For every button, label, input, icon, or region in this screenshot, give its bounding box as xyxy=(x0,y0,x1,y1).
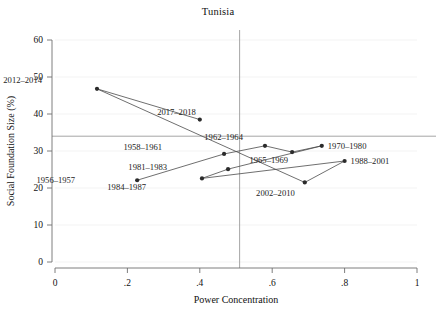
data-point-1965-1969[interactable] xyxy=(290,150,294,154)
data-point-1984-1987[interactable] xyxy=(200,176,204,180)
axis-spines-group xyxy=(52,40,417,268)
y-tick-label-30: 30 xyxy=(34,146,44,156)
x-axis-ticks-group: 0.2.4.6.81 xyxy=(53,268,420,288)
point-label-1970-1980: 1970–1980 xyxy=(328,141,367,151)
point-label-1981-1983: 1981–1983 xyxy=(128,162,167,172)
gridlines-group xyxy=(55,40,417,262)
data-point-1988-2001[interactable] xyxy=(343,159,347,163)
y-tick-label-10: 10 xyxy=(34,220,44,230)
y-tick-label-0: 0 xyxy=(38,257,43,267)
x-axis-title: Power Concentration xyxy=(194,294,279,305)
data-point-1981-1983[interactable] xyxy=(226,167,230,171)
x-tick-label-1: 1 xyxy=(415,278,420,288)
x-tick-label-.4: .4 xyxy=(196,278,203,288)
data-point-1962-1964[interactable] xyxy=(263,144,267,148)
point-label-1958-1961: 1958–1961 xyxy=(123,142,162,152)
point-label-1962-1964: 1962–1964 xyxy=(204,132,243,142)
point-label-2002-2010: 2002–2010 xyxy=(256,188,295,198)
point-label-2017-2018: 2017–2018 xyxy=(157,107,196,117)
point-label-2012-2014: 2012–2014 xyxy=(3,75,42,85)
x-tick-label-.6: .6 xyxy=(269,278,276,288)
point-label-1956-1957: 1956–1957 xyxy=(36,175,75,185)
data-point-2012-2014[interactable] xyxy=(95,87,99,91)
data-point-1958-1961[interactable] xyxy=(222,152,226,156)
x-tick-label-.8: .8 xyxy=(341,278,348,288)
x-tick-label-.2: .2 xyxy=(124,278,131,288)
data-point-2017-2018[interactable] xyxy=(198,117,202,121)
y-axis-ticks-group: 0102030405060 xyxy=(34,35,53,267)
data-point-2002-2010[interactable] xyxy=(303,180,307,184)
chart-figure: Tunisia 0.2.4.6.81 0102030405060 1956–19… xyxy=(0,0,436,314)
scatter-plot-canvas: 0.2.4.6.81 0102030405060 1956–19571958–1… xyxy=(0,0,436,314)
y-tick-label-40: 40 xyxy=(34,109,44,119)
x-tick-label-0: 0 xyxy=(53,278,58,288)
data-point-1970-1980[interactable] xyxy=(320,144,324,148)
y-tick-label-60: 60 xyxy=(34,35,44,45)
point-label-1988-2001: 1988–2001 xyxy=(351,156,390,166)
reference-lines-group xyxy=(52,30,436,268)
y-axis-title: Social Foundation Size (%) xyxy=(5,96,17,206)
point-label-1984-1987: 1984–1987 xyxy=(107,182,146,192)
point-label-1965-1969: 1965–1969 xyxy=(249,155,288,165)
